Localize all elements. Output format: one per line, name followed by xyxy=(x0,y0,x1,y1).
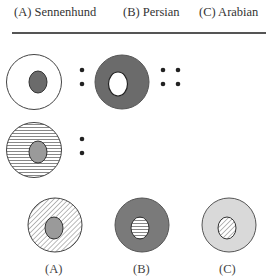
answer-b-figure[interactable] xyxy=(115,198,169,252)
answer-b-label: (B) xyxy=(133,262,150,277)
row1-colon-icon xyxy=(80,68,85,87)
answer-c-label: (C) xyxy=(219,262,236,277)
answer-c-figure[interactable] xyxy=(202,198,256,252)
row2-left-figure xyxy=(7,123,62,178)
row1-right-figure xyxy=(95,55,149,109)
row2-colon-icon xyxy=(80,137,85,156)
double-colon-icon xyxy=(161,68,181,87)
answer-a-figure[interactable] xyxy=(28,198,82,252)
row1-left-figure xyxy=(7,55,62,110)
answer-a-label: (A) xyxy=(45,262,62,277)
analogy-diagram xyxy=(0,0,277,280)
